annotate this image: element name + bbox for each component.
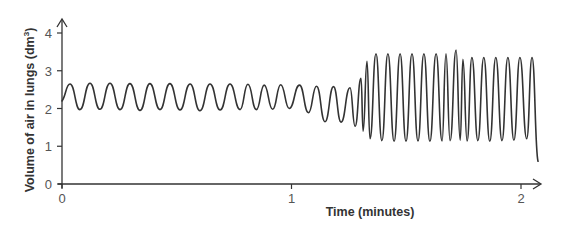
x-tick-label: 0 — [58, 191, 65, 206]
y-tick-label: 2 — [45, 102, 52, 117]
y-axis-title: Volume of air in lungs (dm3) — [22, 28, 37, 193]
y-tick-label: 0 — [45, 177, 52, 192]
y-tick-label: 1 — [45, 139, 52, 154]
lung-volume-line — [62, 50, 538, 161]
x-ticks: 012 — [58, 184, 524, 206]
lung-volume-chart: 01234 012 Time (minutes) Volume of air i… — [0, 0, 569, 235]
x-axis-title: Time (minutes) — [326, 205, 415, 219]
y-axis-title-close: ) — [23, 28, 37, 32]
y-axis-title-main: Volume of air in lungs (dm — [23, 36, 37, 192]
axes — [57, 19, 541, 189]
y-ticks: 01234 — [45, 26, 62, 192]
y-tick-label: 4 — [45, 26, 52, 41]
x-tick-label: 1 — [288, 191, 295, 206]
y-tick-label: 3 — [45, 64, 52, 79]
x-tick-label: 2 — [517, 191, 524, 206]
